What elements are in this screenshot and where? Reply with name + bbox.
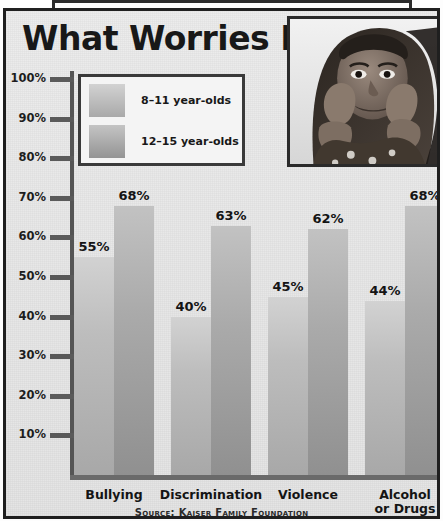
bar-bullying-12-15 [114,206,154,475]
category-label-line: Alcohol [347,488,440,502]
chart-panel: What Worries Kids [3,8,440,519]
bar-violence-8-11 [268,297,308,475]
bar-value-label: 44% [359,283,411,298]
bar-value-label: 68% [108,188,160,203]
top-rule-decoration [52,0,412,3]
bar-series-container: 55%68%40%63%45%62%44%68% [6,11,440,475]
bar-bullying-8-11 [74,257,114,475]
bar-value-label: 55% [68,239,120,254]
bar-value-label: 40% [165,299,217,314]
chart-page: What Worries Kids [0,0,443,521]
bar-value-label: 62% [302,211,354,226]
bar-alcohol-or-drugs-12-15 [405,206,440,475]
bar-discrimination-8-11 [171,317,211,475]
bar-value-label: 68% [399,188,440,203]
bar-violence-12-15 [308,229,348,475]
bar-alcohol-or-drugs-8-11 [365,301,405,475]
bar-discrimination-12-15 [211,226,251,475]
bar-value-label: 63% [205,208,257,223]
x-axis-baseline [70,475,440,480]
source-note: Source: Kaiser Family Foundation [6,507,437,518]
bar-value-label: 45% [262,279,314,294]
